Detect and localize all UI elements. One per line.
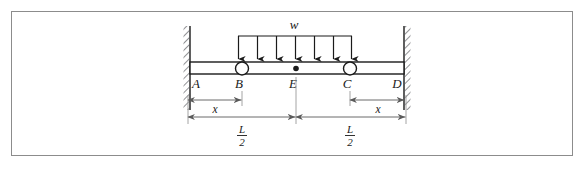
load-arrows bbox=[239, 36, 352, 59]
dimension-x-right: x bbox=[351, 100, 405, 115]
distributed-load-group: w bbox=[238, 17, 352, 59]
node-labels: A B E C D bbox=[191, 76, 402, 91]
load-label-w: w bbox=[290, 17, 299, 32]
dimension-label-l-numerator-left: L bbox=[238, 123, 245, 135]
dimension-x-left: x bbox=[189, 100, 242, 115]
dimension-label-l-numerator-right: L bbox=[346, 123, 353, 135]
figure-root: w A B E C D x bbox=[0, 0, 586, 170]
dimension-label-l-denominator-left: 2 bbox=[239, 136, 245, 148]
node-label-d: D bbox=[391, 76, 402, 91]
roller-support-b bbox=[236, 62, 249, 75]
midpoint-marker-e bbox=[293, 66, 299, 72]
right-wall-hatching bbox=[404, 26, 411, 110]
left-wall-hatching bbox=[184, 26, 191, 110]
dimension-half-length-left: L 2 bbox=[189, 117, 296, 148]
node-label-b: B bbox=[235, 76, 243, 91]
dimension-label-x-right: x bbox=[374, 103, 381, 115]
right-fixed-support bbox=[404, 26, 411, 110]
node-label-c: C bbox=[343, 76, 352, 91]
dimension-label-x-left: x bbox=[211, 103, 218, 115]
node-label-a: A bbox=[191, 76, 200, 91]
beam-diagram: w A B E C D x bbox=[0, 0, 586, 170]
dimension-half-length-right: L 2 bbox=[297, 117, 406, 148]
left-fixed-support bbox=[184, 26, 191, 110]
roller-support-c bbox=[344, 62, 357, 75]
dimension-label-l-denominator-right: 2 bbox=[347, 136, 353, 148]
